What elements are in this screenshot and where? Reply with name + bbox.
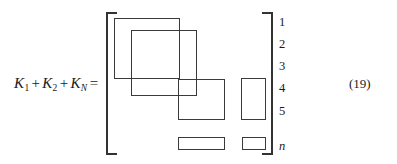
right-bracket-stem [271,12,273,155]
plus-operator-2: + [57,75,70,91]
row-label-3: 3 [279,60,285,73]
left-bracket-bottom-foot [106,153,117,155]
right-bracket-bottom-foot [262,153,273,155]
k-symbol-n: K [70,75,80,91]
term-k2: K2 [42,75,57,91]
row-label-1: 1 [279,16,285,29]
left-bracket-stem [106,12,108,155]
block-column-tall [241,78,266,120]
equation-number: (19) [349,77,371,90]
k-symbol-2: K [42,75,52,91]
right-bracket-top-foot [262,12,273,14]
plus-operator-1: + [29,75,42,91]
lhs-expression: K1+K2+KN= [14,76,98,93]
block-bottom-wide [178,137,225,150]
row-label-4: 4 [279,82,285,95]
row-label-5: 5 [279,105,285,118]
row-label-2: 2 [279,38,285,51]
block-bottom-small [242,137,266,150]
term-kn: KN [70,75,87,91]
block-k3 [178,79,225,120]
left-bracket-top-foot [106,12,117,14]
k-symbol-1: K [14,75,24,91]
term-k1: K1 [14,75,29,91]
equals-operator: = [87,75,98,91]
row-label-n: n [279,140,285,153]
equation-figure: K1+K2+KN= 12345n (19) [0,0,397,164]
